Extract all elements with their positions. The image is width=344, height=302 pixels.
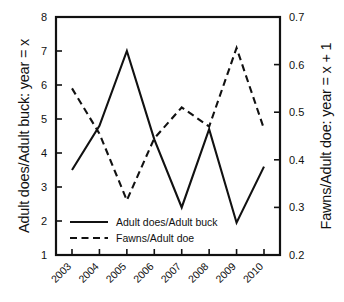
y-axis-right-tick-label: 0.7: [289, 11, 304, 23]
x-axis-tick-label: 2003: [48, 260, 73, 285]
y-axis-left-tick-label: 8: [41, 11, 47, 23]
y-axis-left-tick-label: 2: [41, 215, 47, 227]
y-axis-left-tick-label: 6: [41, 79, 47, 91]
y-axis-right-tick-label: 0.6: [289, 59, 304, 71]
y-axis-right-tick-label: 0.2: [289, 249, 304, 261]
x-axis-tick-label: 2007: [158, 260, 183, 285]
x-axis-tick-label: 2010: [240, 260, 265, 285]
y-axis-right-tick-label: 0.4: [289, 154, 304, 166]
legend-label: Adult does/Adult buck: [116, 216, 218, 228]
y-axis-left-ticks: 12345678: [41, 11, 62, 261]
y-axis-left-tick-label: 3: [41, 181, 47, 193]
chart-legend: Adult does/Adult buckFawns/Adult doe: [70, 216, 218, 244]
legend-label: Fawns/Adult doe: [116, 232, 194, 244]
y-axis-left-title: Adult does/Adult buck: year = x: [16, 16, 32, 256]
x-axis-tick-label: 2004: [76, 260, 101, 285]
x-axis-tick-label: 2006: [131, 260, 156, 285]
chart-series-group: [72, 48, 264, 223]
x-axis-tick-label: 2005: [103, 260, 128, 285]
y-axis-right-tick-label: 0.3: [289, 201, 304, 213]
y-axis-left-tick-label: 5: [41, 113, 47, 125]
chart-figure: Adult does/Adult buck: year = x Fawns/Ad…: [0, 0, 344, 302]
y-axis-left-tick-label: 1: [41, 249, 47, 261]
x-axis-tick-label: 2009: [213, 260, 238, 285]
chart-plot-area: 12345678 0.20.30.40.50.60.7 200320042005…: [0, 0, 344, 302]
series-line-solid: [72, 51, 264, 223]
y-axis-right-ticks: 0.20.30.40.50.60.7: [274, 11, 304, 261]
y-axis-left-tick-label: 4: [41, 147, 47, 159]
x-axis-tick-label: 2008: [186, 260, 211, 285]
y-axis-left-tick-label: 7: [41, 45, 47, 57]
y-axis-right-tick-label: 0.5: [289, 106, 304, 118]
y-axis-right-title: Fawns/Adult doe: year = x + 1: [318, 16, 334, 256]
